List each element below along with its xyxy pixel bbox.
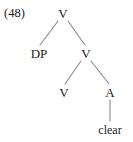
tree-edge-v-root-v-mid: [68, 21, 85, 45]
tree-node-clear: clear: [98, 124, 121, 137]
tree-edge-v-mid-a: [91, 61, 109, 84]
tree-node-v-root: V: [58, 7, 67, 20]
tree-node-v-mid: V: [81, 47, 90, 60]
tree-node-v-terminal: V: [59, 86, 68, 99]
tree-edge-v-mid-v-terminal: [65, 61, 81, 84]
tree-node-dp: DP: [31, 47, 48, 60]
tree-edges: [0, 0, 133, 142]
tree-edge-v-root-dp: [40, 21, 58, 45]
figure-container: (48) VDPVVAclear: [0, 0, 133, 142]
tree-node-a: A: [105, 86, 114, 99]
